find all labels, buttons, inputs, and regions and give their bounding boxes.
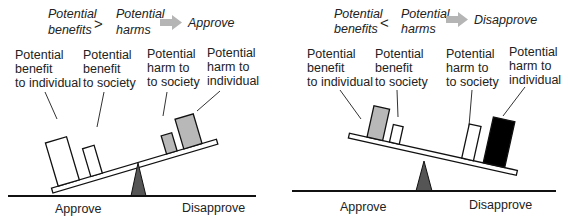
label-benefit-individual-1: Potential xyxy=(307,47,356,61)
label-harm-society-1: Potential xyxy=(446,47,495,61)
block-benefit-individual xyxy=(367,106,390,141)
eq-operator: < xyxy=(380,14,389,31)
equation: Potential benefits < Potential harms Dis… xyxy=(334,7,537,36)
eq-right-line2: harms xyxy=(401,22,436,36)
ground-label-approve: Approve xyxy=(340,200,387,214)
eq-right-line1: Potential xyxy=(401,7,451,21)
block-benefit-society xyxy=(83,145,103,176)
label-benefit-society-3: to society xyxy=(375,75,429,89)
ground-label-approve: Approve xyxy=(55,202,102,216)
label-benefit-individual-2: benefit xyxy=(307,61,345,75)
label-harm-society-3: to society xyxy=(446,75,500,89)
label-harm-individual-1: Potential xyxy=(509,45,558,59)
approve-panel: Potential benefits > Potential harms App… xyxy=(8,7,259,216)
block-harm-society xyxy=(462,124,481,161)
block-harm-individual xyxy=(175,114,202,149)
fulcrum-icon xyxy=(416,161,432,191)
label-harm-society-2: harm to xyxy=(446,61,488,75)
label-benefit-individual-3: to individual xyxy=(15,76,81,90)
label-benefit-society-3: to society xyxy=(83,76,137,90)
equation: Potential benefits > Potential harms App… xyxy=(48,7,235,37)
label-benefit-society-2: benefit xyxy=(83,62,121,76)
label-harm-individual-3: individual xyxy=(207,74,259,88)
label-harm-individual-1: Potential xyxy=(207,46,256,60)
ground-label-disapprove: Disapprove xyxy=(182,201,245,215)
block-harm-individual xyxy=(483,117,515,168)
seesaw-beam-group xyxy=(348,87,527,175)
label-harm-individual-2: harm to xyxy=(207,60,249,74)
eq-outcome: Approve xyxy=(187,16,235,30)
block-harm-society xyxy=(161,133,177,154)
label-harm-society-3: to society xyxy=(147,75,201,89)
benefit-harm-balance-diagram: Potential benefits > Potential harms App… xyxy=(0,0,568,224)
label-benefit-individual-1: Potential xyxy=(15,48,64,62)
ground-label-disapprove: Disapprove xyxy=(469,198,532,212)
block-benefit-society xyxy=(389,124,403,144)
label-benefit-individual-3: to individual xyxy=(307,75,373,89)
block-benefit-individual xyxy=(45,137,79,186)
label-benefit-society-1: Potential xyxy=(375,47,424,61)
eq-operator: > xyxy=(94,15,103,32)
eq-right-line2: harms xyxy=(116,23,151,37)
eq-left-line2: benefits xyxy=(334,22,378,36)
item-labels: Potential benefit to individual Potentia… xyxy=(15,46,259,90)
label-harm-individual-2: harm to xyxy=(509,59,551,73)
label-harm-society-1: Potential xyxy=(147,47,196,61)
eq-outcome: Disapprove xyxy=(474,13,537,27)
label-benefit-society-1: Potential xyxy=(83,48,132,62)
eq-left-line1: Potential xyxy=(48,7,98,21)
seesaw-beam-group xyxy=(39,96,218,193)
eq-right-line1: Potential xyxy=(116,7,166,21)
eq-left-line1: Potential xyxy=(334,7,384,21)
disapprove-panel: Potential benefits < Potential harms Dis… xyxy=(292,7,561,214)
label-harm-society-2: harm to xyxy=(147,61,189,75)
item-labels: Potential benefit to individual Potentia… xyxy=(307,45,561,89)
label-benefit-society-2: benefit xyxy=(375,61,413,75)
eq-left-line2: benefits xyxy=(48,23,92,37)
label-harm-individual-3: individual xyxy=(509,73,561,87)
label-benefit-individual-2: benefit xyxy=(15,62,53,76)
